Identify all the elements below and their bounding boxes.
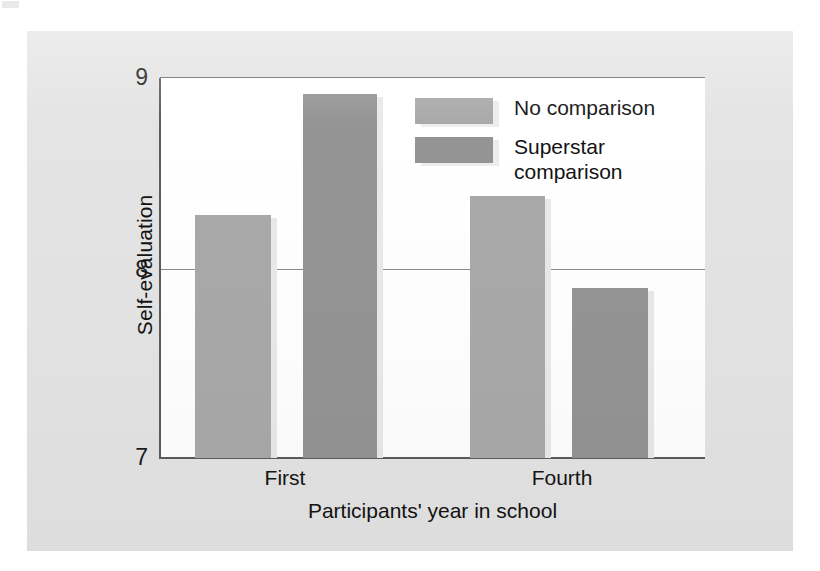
y-tick-label-7: 7: [108, 446, 148, 469]
y-axis-title: Self-evaluation: [133, 115, 157, 415]
x-tick-label-fourth: Fourth: [452, 466, 672, 490]
bar-first-superstar-comparison[interactable]: [303, 94, 377, 458]
x-tick-label-first: First: [175, 466, 395, 490]
legend-swatch-superstar-comparison: [415, 137, 493, 163]
gridline-9: [160, 77, 705, 78]
bar-fourth-superstar-comparison[interactable]: [572, 288, 648, 458]
legend-label-no-comparison: No comparison: [514, 95, 655, 120]
bar-first-no-comparison[interactable]: [195, 215, 271, 458]
legend-label-superstar-comparison: Superstar comparison: [514, 134, 623, 184]
y-tick-label-9: 9: [108, 66, 148, 89]
y-axis-line: [159, 78, 161, 459]
bar-fourth-no-comparison[interactable]: [470, 196, 545, 458]
figure-canvas: 9 8 7 Self-evaluation First Fourth Parti…: [0, 0, 820, 571]
x-axis-title: Participants' year in school: [160, 499, 705, 523]
scan-artifact: [2, 1, 19, 8]
legend-swatch-no-comparison: [415, 98, 493, 124]
